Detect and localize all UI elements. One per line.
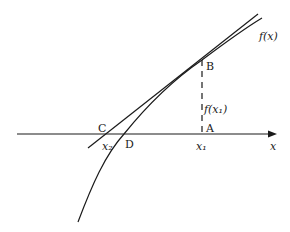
diagram-svg: f(x) B f(x₁) A C D x₂ x₁ x: [0, 0, 290, 232]
ordinate-label: f(x₁): [203, 103, 227, 116]
curve-label: f(x): [258, 30, 278, 43]
point-a-label: A: [205, 122, 215, 135]
axis-label: x: [270, 140, 277, 153]
curve-f: [78, 18, 262, 222]
point-c-label: C: [98, 122, 106, 135]
tangent-at-b: [88, 14, 258, 148]
x1-label: x₁: [196, 140, 207, 153]
point-d-label: D: [125, 138, 134, 151]
axis-arrow-icon: [268, 131, 277, 138]
point-b-label: B: [206, 60, 214, 73]
x2-label: x₂: [102, 140, 113, 153]
newton-method-diagram: f(x) B f(x₁) A C D x₂ x₁ x: [0, 0, 290, 232]
